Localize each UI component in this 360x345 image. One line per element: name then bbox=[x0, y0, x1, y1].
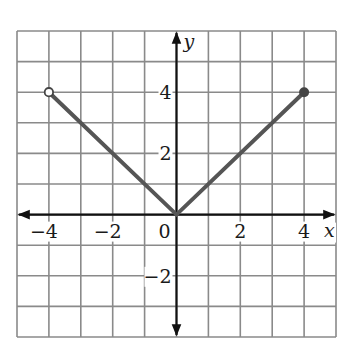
axis-labels: −4−224042−2yx bbox=[30, 30, 336, 287]
y-axis-label: y bbox=[183, 30, 195, 52]
closed-endpoint bbox=[299, 87, 309, 97]
y-tick-label: −2 bbox=[143, 265, 171, 287]
x-tick-label: 2 bbox=[234, 220, 246, 242]
x-tick-label: −4 bbox=[30, 220, 58, 242]
x-tick-label: −2 bbox=[94, 220, 122, 242]
y-tick-label: 2 bbox=[159, 142, 171, 164]
function-graph: −4−224042−2yx bbox=[0, 0, 360, 345]
x-axis-label: x bbox=[324, 219, 335, 241]
open-endpoint bbox=[45, 88, 53, 96]
origin-label: 0 bbox=[158, 220, 170, 242]
y-tick-label: 4 bbox=[159, 81, 171, 103]
x-tick-label: 4 bbox=[298, 220, 310, 242]
